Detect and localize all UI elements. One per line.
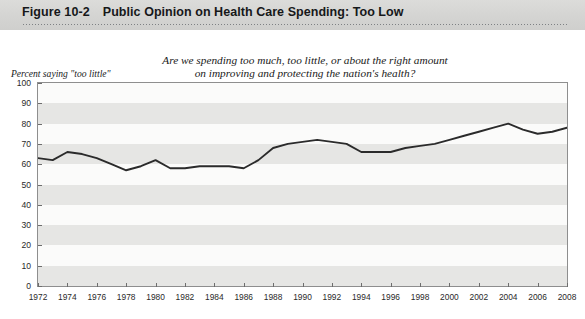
x-tick-mark	[332, 283, 333, 287]
y-tick-mark	[38, 164, 42, 165]
x-tick-label: 1998	[405, 292, 435, 302]
chart-plot-wrapper: 0102030405060708090100 19721974197619781…	[0, 0, 585, 319]
x-tick-mark	[67, 283, 68, 287]
x-tick-label: 2002	[464, 292, 494, 302]
y-tick-label: 0	[7, 281, 31, 291]
y-tick-label: 70	[7, 139, 31, 149]
y-tick-mark	[38, 205, 42, 206]
x-tick-label: 1988	[258, 292, 288, 302]
x-tick-label: 2008	[552, 292, 582, 302]
x-tick-mark	[479, 283, 480, 287]
y-tick-mark	[38, 124, 42, 125]
x-tick-mark	[567, 283, 568, 287]
x-tick-mark	[185, 283, 186, 287]
y-tick-mark	[38, 225, 42, 226]
x-tick-label: 1976	[82, 292, 112, 302]
y-tick-label: 60	[7, 159, 31, 169]
y-tick-mark	[38, 266, 42, 267]
y-tick-mark	[38, 185, 42, 186]
y-tick-label: 10	[7, 261, 31, 271]
y-tick-label: 90	[7, 98, 31, 108]
x-tick-mark	[303, 283, 304, 287]
x-tick-mark	[214, 283, 215, 287]
x-tick-mark	[508, 283, 509, 287]
y-tick-label: 80	[7, 119, 31, 129]
x-tick-mark	[38, 283, 39, 287]
x-tick-label: 1972	[23, 292, 53, 302]
x-tick-label: 1996	[376, 292, 406, 302]
y-tick-mark	[38, 245, 42, 246]
x-tick-mark	[420, 283, 421, 287]
x-tick-label: 1994	[346, 292, 376, 302]
x-tick-label: 1982	[170, 292, 200, 302]
x-tick-mark	[156, 283, 157, 287]
x-tick-label: 2004	[493, 292, 523, 302]
x-tick-mark	[449, 283, 450, 287]
y-tick-mark	[38, 83, 42, 84]
x-tick-label: 2006	[523, 292, 553, 302]
y-tick-label: 50	[7, 180, 31, 190]
x-tick-mark	[538, 283, 539, 287]
x-tick-mark	[97, 283, 98, 287]
x-tick-label: 1980	[141, 292, 171, 302]
x-tick-label: 1974	[52, 292, 82, 302]
x-tick-mark	[273, 283, 274, 287]
x-tick-label: 1986	[229, 292, 259, 302]
y-tick-label: 100	[7, 78, 31, 88]
chart-plot-area	[37, 82, 568, 287]
chart-line-svg	[38, 83, 568, 287]
x-tick-mark	[391, 283, 392, 287]
data-series-line	[38, 124, 567, 171]
y-tick-mark	[38, 103, 42, 104]
y-tick-label: 30	[7, 220, 31, 230]
x-tick-label: 1992	[317, 292, 347, 302]
x-tick-label: 2000	[434, 292, 464, 302]
x-tick-label: 1978	[111, 292, 141, 302]
x-tick-mark	[126, 283, 127, 287]
source-note	[24, 306, 444, 315]
y-tick-label: 40	[7, 200, 31, 210]
x-tick-mark	[361, 283, 362, 287]
x-tick-label: 1984	[199, 292, 229, 302]
y-tick-mark	[38, 144, 42, 145]
x-tick-mark	[244, 283, 245, 287]
y-tick-label: 20	[7, 240, 31, 250]
x-tick-label: 1990	[288, 292, 318, 302]
